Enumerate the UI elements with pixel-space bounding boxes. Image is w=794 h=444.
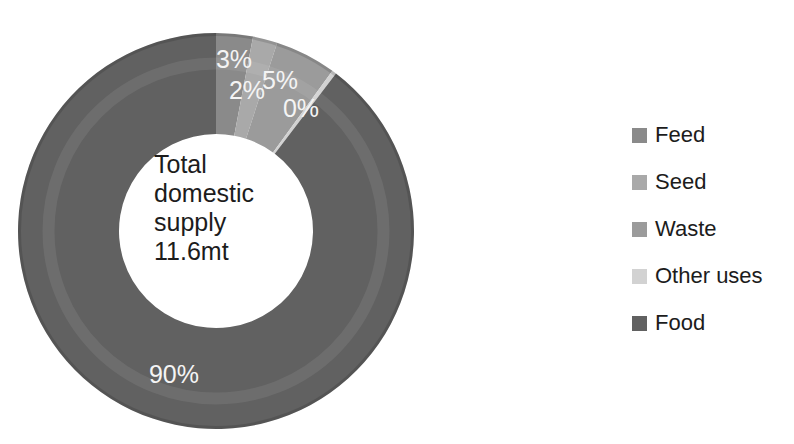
legend-label: Waste (655, 216, 717, 242)
legend-swatch-icon (632, 316, 647, 331)
legend-item-other-uses: Other uses (632, 265, 763, 287)
slice-label-food: 90% (149, 360, 199, 388)
legend-label: Food (655, 310, 705, 336)
legend-label: Seed (655, 169, 706, 195)
slice-label-other-uses: 0% (283, 94, 319, 122)
legend-label: Other uses (655, 263, 763, 289)
legend-item-seed: Seed (632, 171, 763, 193)
figure: 3%2%5%0%90% Total domestic supply 11.6mt… (0, 0, 794, 444)
legend-label: Feed (655, 122, 705, 148)
legend-item-food: Food (632, 312, 763, 334)
legend-swatch-icon (632, 128, 647, 143)
legend-swatch-icon (632, 175, 647, 190)
legend-item-feed: Feed (632, 124, 763, 146)
legend-swatch-icon (632, 269, 647, 284)
donut-center-label: Total domestic supply 11.6mt (154, 150, 304, 266)
slice-label-waste: 5% (262, 66, 298, 94)
legend: FeedSeedWasteOther usesFood (632, 124, 763, 334)
slice-label-seed: 2% (229, 76, 265, 104)
legend-swatch-icon (632, 222, 647, 237)
slice-label-feed: 3% (216, 45, 252, 73)
legend-item-waste: Waste (632, 218, 763, 240)
